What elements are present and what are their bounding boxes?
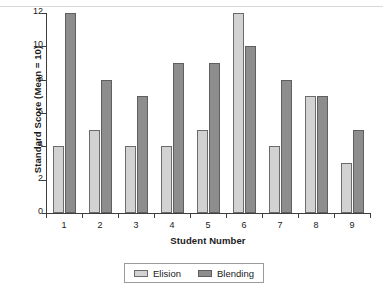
bar-blending-student-8 (317, 96, 328, 213)
x-tick-label: 6 (232, 220, 256, 230)
x-axis-title: Student Number (46, 235, 370, 246)
x-tick-mark (370, 213, 371, 218)
plot-area: 024681012 123456789 (46, 13, 370, 213)
y-tick-label: 6 (38, 106, 43, 116)
bar-elision-student-8 (305, 96, 316, 213)
y-tick-label: 0 (38, 206, 43, 216)
x-tick-label: 8 (304, 220, 328, 230)
bar-blending-student-3 (137, 96, 148, 213)
chart-legend: Elision Blending (124, 263, 264, 283)
y-tick-label: 10 (33, 39, 43, 49)
x-tick-mark (190, 213, 191, 218)
legend-item-elision: Elision (134, 268, 181, 279)
legend-swatch-elision (134, 270, 148, 277)
x-tick-mark (154, 213, 155, 218)
x-tick-label: 9 (340, 220, 364, 230)
x-tick-mark (262, 213, 263, 218)
bar-blending-student-1 (65, 13, 76, 213)
y-tick-label: 12 (33, 6, 43, 16)
y-tick-label: 8 (38, 73, 43, 83)
bar-blending-student-2 (101, 80, 112, 213)
legend-label-elision: Elision (153, 268, 181, 279)
bar-elision-student-5 (197, 130, 208, 213)
x-tick-mark (226, 213, 227, 218)
bar-elision-student-4 (161, 146, 172, 213)
bar-elision-student-2 (89, 130, 100, 213)
bar-blending-student-7 (281, 80, 292, 213)
bar-blending-student-5 (209, 63, 220, 213)
x-tick-mark (298, 213, 299, 218)
legend-item-blending: Blending (198, 268, 254, 279)
legend-label-blending: Blending (217, 268, 254, 279)
x-tick-label: 3 (124, 220, 148, 230)
x-tick-label: 1 (52, 220, 76, 230)
bar-elision-student-7 (269, 146, 280, 213)
bar-blending-student-9 (353, 130, 364, 213)
x-tick-label: 7 (268, 220, 292, 230)
bar-elision-student-3 (125, 146, 136, 213)
bar-elision-student-6 (233, 13, 244, 213)
bar-elision-student-9 (341, 163, 352, 213)
x-tick-mark (118, 213, 119, 218)
x-tick-mark (46, 213, 47, 218)
y-axis-line (46, 13, 47, 214)
bar-blending-student-6 (245, 46, 256, 213)
x-tick-label: 2 (88, 220, 112, 230)
legend-swatch-blending (198, 270, 212, 277)
bar-elision-student-1 (53, 146, 64, 213)
x-axis-line (46, 213, 370, 214)
x-tick-label: 5 (196, 220, 220, 230)
y-tick-label: 4 (38, 139, 43, 149)
y-tick-label: 2 (38, 173, 43, 183)
bar-blending-student-4 (173, 63, 184, 213)
x-tick-mark (334, 213, 335, 218)
x-tick-mark (82, 213, 83, 218)
x-tick-label: 4 (160, 220, 184, 230)
bar-chart-figure: Standard Score (Mean = 10) 024681012 123… (0, 0, 383, 291)
